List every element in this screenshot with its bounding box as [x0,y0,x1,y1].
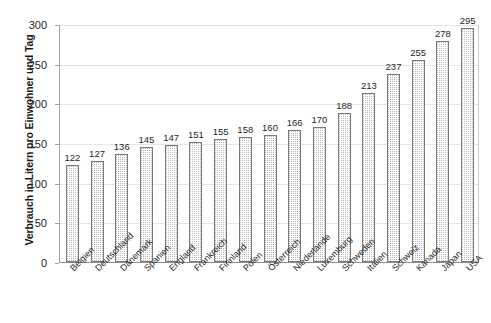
x-category-label: Polen [241,250,264,273]
x-category-label: Belgien [68,245,96,273]
x-axis-category-labels: BelgienDeutschlandDänemarkSpanienEngland… [0,0,491,323]
x-category-label: Japan [439,249,463,273]
x-category-label: England [167,243,197,273]
x-category-label: Italien [365,249,389,273]
x-category-label: USA [464,253,484,273]
bar-chart: Verbrauch in Litern pro Einwohner und Ta… [0,0,491,323]
